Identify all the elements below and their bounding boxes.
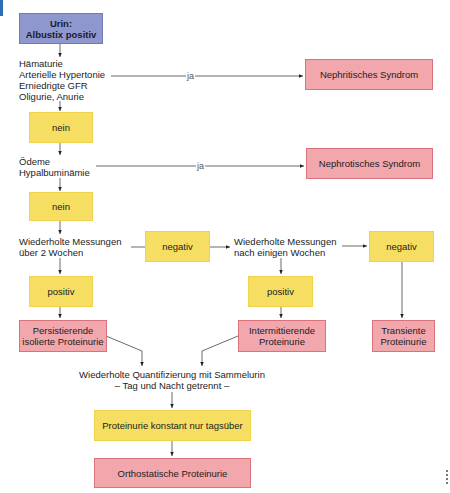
yes-label-1: ja [186,71,195,81]
result-orthostatic-proteinuria: Orthostatische Proteinurie [94,458,251,488]
question-repeat-weeks: Wiederholte Messungen nach einigen Woche… [234,236,336,258]
question-edema: Ödeme Hypalbuminämie [19,156,90,178]
q5-line2: – Tag und Nacht getrennt – [72,380,272,391]
q1-line: Oligurie, Anurie [19,91,105,102]
persistent-line1: Persistierende [33,325,94,336]
result-transient-proteinuria: Transiente Proteinurie [372,320,435,352]
start-line2: Albustix positiv [26,29,97,40]
intermittent-line1: Intermittierende [249,325,315,336]
result-intermittent-proteinuria: Intermittierende Proteinurie [238,320,326,352]
q4-line: Wiederholte Messungen [234,236,336,247]
persistent-line2: isolierte Proteinurie [22,336,103,347]
q1-line: Arterielle Hypertonie [19,69,105,80]
q1-line: Hämaturie [19,58,105,69]
result-nephrotic-syndrome: Nephrotisches Syndrom [306,148,433,179]
start-node: Urin: Albustix positiv [19,13,103,44]
question-repeat-2-weeks: Wiederholte Messungen über 2 Wochen [19,236,121,258]
negative-node-1: negativ [145,231,210,262]
q3-line: über 2 Wochen [19,247,121,258]
page-edge-marks [446,470,450,484]
positive-node-1: positiv [29,276,93,307]
result-nephritic-syndrome: Nephritisches Syndrom [305,59,433,90]
intermittent-line2: Proteinurie [259,336,305,347]
no-node-1: nein [29,112,93,143]
negative-node-2: negativ [369,231,434,262]
finding-daytime-proteinuria: Proteinurie konstant nur tagsüber [94,410,251,441]
q2-line: Hypalbuminämie [19,167,90,178]
transient-line2: Proteinurie [381,336,427,347]
q3-line: Wiederholte Messungen [19,236,121,247]
yes-label-2: ja [196,161,205,171]
no-node-2: nein [29,192,93,221]
result-persistent-proteinuria: Persistierende isolierte Proteinurie [19,320,107,352]
positive-node-2: positiv [248,276,313,307]
transient-line1: Transiente [381,325,426,336]
q2-line: Ödeme [19,156,90,167]
start-line1: Urin: [50,18,72,29]
q5-line1: Wiederholte Quantifizierung mit Sammelur… [72,369,272,380]
q1-line: Erniedrigte GFR [19,80,105,91]
question-collected-urine: Wiederholte Quantifizierung mit Sammelur… [72,369,272,391]
question-nephritic-signs: Hämaturie Arterielle Hypertonie Erniedri… [19,58,105,102]
q4-line: nach einigen Wochen [234,247,336,258]
